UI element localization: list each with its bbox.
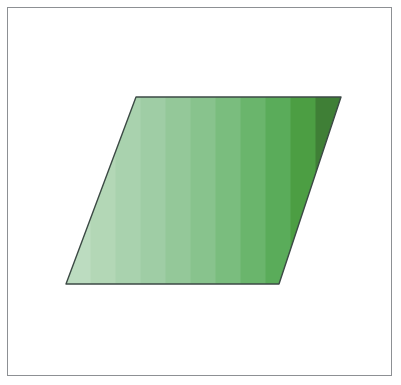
- gradient-band-3: [116, 95, 142, 286]
- parallelogram-figure: [0, 0, 401, 385]
- gradient-band-6: [191, 95, 217, 286]
- gradient-band-2: [91, 95, 117, 286]
- gradient-band-5: [166, 95, 192, 286]
- gradient-band-1: [66, 95, 92, 286]
- gradient-band-7: [216, 95, 242, 286]
- gradient-band-11: [316, 95, 342, 286]
- gradient-band-8: [241, 95, 267, 286]
- parallelogram-gradient-bands: [66, 95, 342, 286]
- image-canvas: [0, 0, 401, 385]
- gradient-band-10: [291, 95, 317, 286]
- gradient-band-4: [141, 95, 167, 286]
